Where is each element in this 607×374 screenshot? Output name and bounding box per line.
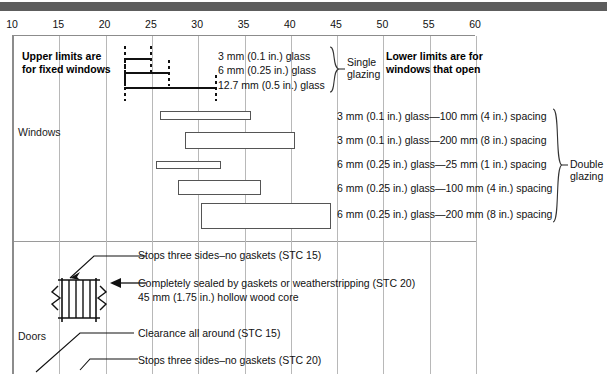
single-glazing-bar-1-cap-end (150, 46, 152, 72)
note-upper-limits: Upper limits are for fixed windows (22, 50, 111, 76)
section-label-windows: Windows (18, 126, 61, 138)
door-annotation-4: Clearance all around (STC 15) (138, 327, 280, 340)
x-tick-label-10: 10 (6, 18, 18, 30)
x-tick-label-15: 15 (52, 18, 64, 30)
single-glazing-bar-3-cap-start (124, 75, 126, 101)
figure-canvas: 1015202530354045505560 Windows Doors Upp… (0, 0, 607, 374)
double-glazing-bar-5 (201, 203, 332, 229)
x-tick-label-50: 50 (377, 18, 389, 30)
double-glazing-bar-4 (178, 180, 261, 195)
x-tick-label-55: 55 (423, 18, 435, 30)
door-annotation-3: 45 mm (1.75 in.) hollow wood core (138, 291, 299, 304)
gridline-10 (13, 36, 14, 374)
single-glazing-bar-2 (125, 72, 169, 74)
gridline-50 (383, 36, 384, 374)
single-glazing-label: Single glazing (347, 56, 380, 80)
double-glazing-label-line2: glazing (570, 170, 603, 182)
x-tick-label-20: 20 (99, 18, 111, 30)
double-glazing-label-1: 3 mm (0.1 in.) glass—100 mm (4 in.) spac… (337, 110, 547, 122)
x-tick-label-35: 35 (238, 18, 250, 30)
single-glazing-label-3: 12.7 mm (0.5 in.) glass (218, 79, 325, 91)
double-glazing-bar-1 (160, 111, 251, 120)
single-glazing-label-1: 3 mm (0.1 in.) glass (218, 50, 310, 62)
single-glazing-label-line1: Single (347, 56, 376, 68)
double-glazing-label-5: 6 mm (0.25 in.) glass—200 mm (8 in.) spa… (337, 208, 552, 220)
x-tick-label-25: 25 (145, 18, 157, 30)
gridline-60 (476, 36, 477, 374)
note-lower-limits-line2: windows that open (386, 63, 481, 75)
double-glazing-bar-3 (156, 161, 222, 169)
x-tick-label-45: 45 (330, 18, 342, 30)
note-lower-limits-line1: Lower limits are for (386, 50, 483, 62)
double-glazing-label-4: 6 mm (0.25 in.) glass—100 mm (4 in.) spa… (337, 182, 552, 194)
x-axis-labels: 1015202530354045505560 (0, 18, 607, 32)
door-callout-arrow-4 (58, 356, 140, 374)
door-annotation-1: Stops three sides–no gaskets (STC 15) (138, 249, 321, 262)
x-tick-label-30: 30 (191, 18, 203, 30)
double-glazing-label-3: 6 mm (0.25 in.) glass—25 mm (1 in.) spac… (337, 158, 547, 170)
single-glazing-bar-3 (125, 87, 216, 89)
single-glazing-label-2: 6 mm (0.25 in.) glass (218, 64, 316, 76)
door-annotation-5: Stops three sides–no gaskets (STC 20) (138, 354, 321, 367)
note-lower-limits: Lower limits are for windows that open (386, 50, 483, 76)
note-upper-limits-line1: Upper limits are (22, 50, 101, 62)
single-glazing-brace (328, 46, 346, 94)
single-glazing-bar-3-cap-end (215, 75, 217, 101)
double-glazing-label-line1: Double (570, 158, 603, 170)
double-glazing-bar-2 (185, 132, 295, 149)
gridline-55 (430, 36, 431, 374)
single-glazing-bar-1 (125, 58, 151, 60)
door-annotation-2: Completely sealed by gaskets or weathers… (138, 277, 415, 290)
x-tick-label-60: 60 (469, 18, 481, 30)
note-upper-limits-line2: for fixed windows (22, 63, 111, 75)
double-glazing-label-2: 3 mm (0.1 in.) glass—200 mm (8 in.) spac… (337, 134, 547, 146)
double-glazing-brace (551, 108, 569, 224)
single-glazing-bar-2-cap-end (168, 60, 170, 86)
double-glazing-label: Double glazing (570, 158, 603, 182)
single-glazing-label-line2: glazing (347, 68, 380, 80)
page-header-band (0, 2, 607, 11)
x-tick-label-40: 40 (284, 18, 296, 30)
